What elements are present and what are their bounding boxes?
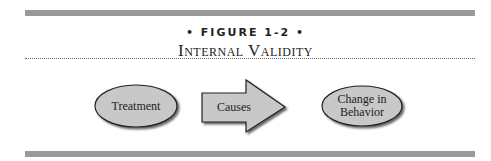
change-label-line2: Behavior (340, 105, 384, 119)
treatment-label: Treatment (112, 99, 162, 113)
change-node: Change in Behavior (322, 86, 402, 126)
causes-label: Causes (217, 100, 251, 114)
change-label-line1: Change in (338, 92, 387, 106)
treatment-node: Treatment (95, 85, 177, 127)
diagram: Treatment Causes Change in Behavior (0, 0, 491, 161)
bottom-rule (25, 151, 475, 157)
causes-arrow: Causes (202, 80, 285, 132)
